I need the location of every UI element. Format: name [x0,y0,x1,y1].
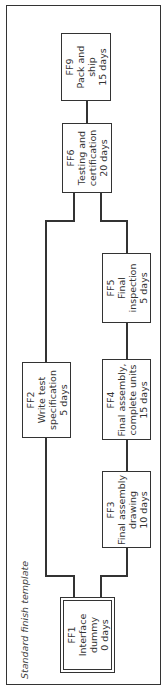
node-duration: 0 days [99,614,110,657]
node-ff1-label: FF1 Interface dummy 0 days [66,614,110,657]
connector-ff6-right-drop [100,193,102,221]
connector-ff3-ff4 [126,440,128,471]
node-name-line1: Final [116,264,127,313]
node-name-line1: Pack and [75,46,86,89]
node-duration: 15 days [97,46,108,89]
node-name-line1: Interface [77,614,88,657]
node-ff9: FF9 Pack and ship 15 days [61,33,111,101]
connector-ff2-up [45,220,47,362]
node-id: FF9 [64,46,75,89]
node-ff3: FF3 Final assembly drawing 10 days [102,471,151,548]
connector-ff2-down [45,438,47,576]
node-name-line1: Write test [36,370,47,430]
connector-ff1-left-horizontal [45,575,75,577]
connector-ff5-up [126,220,128,253]
node-name-line2: specification [47,370,58,430]
node-id: FF2 [25,370,36,430]
node-name-line1: Testing and [76,130,87,187]
node-duration: 15 days [138,363,149,436]
connector-ff6-left-drop [73,193,75,221]
node-ff6-label: FF6 Testing and certification 20 days [65,130,109,187]
node-id: FF6 [65,130,76,187]
node-name-line2: dummy [88,614,99,657]
node-id: FF4 [105,363,116,436]
node-ff4: FF4 Final assembly, complete units 15 da… [102,359,151,440]
node-name-line2: complete units [127,363,138,436]
node-id: FF3 [105,474,116,544]
connector-ff6-right-horizontal [100,220,128,222]
node-ff5: FF5 Final inspection 5 days [102,253,151,323]
node-duration: 20 days [98,130,109,187]
node-duration: 10 days [138,474,149,544]
node-name-line2: ship [86,46,97,89]
node-name-line2: inspection [127,264,138,313]
node-name-line1: Final assembly [116,474,127,544]
connector-ff3-down [126,548,128,576]
node-ff1: FF1 Interface dummy 0 days [60,597,115,673]
template-title: Standard finish template [19,561,30,679]
connector-ff4-ff5 [126,323,128,359]
connector-ff1-right-rise [100,575,102,597]
connector-ff1-left-rise [73,575,75,597]
connector-ff1-right-horizontal [100,575,128,577]
node-ff6: FF6 Testing and certification 20 days [62,123,112,193]
node-duration: 5 days [58,370,69,430]
node-ff3-label: FF3 Final assembly drawing 10 days [105,474,149,544]
node-name-line1: Final assembly, [116,363,127,436]
node-ff9-label: FF9 Pack and ship 15 days [64,46,108,89]
node-ff2-label: FF2 Write test specification 5 days [25,370,69,430]
connector-ff6-left-horizontal [45,220,75,222]
node-ff2: FF2 Write test specification 5 days [22,362,71,438]
node-ff4-label: FF4 Final assembly, complete units 15 da… [105,363,149,436]
node-id: FF1 [66,614,77,657]
node-duration: 5 days [138,264,149,313]
node-name-line2: certification [87,130,98,187]
node-name-line2: drawing [127,474,138,544]
node-id: FF5 [105,264,116,313]
node-ff5-label: FF5 Final inspection 5 days [105,264,149,313]
connector-ff6-ff9 [86,101,88,123]
